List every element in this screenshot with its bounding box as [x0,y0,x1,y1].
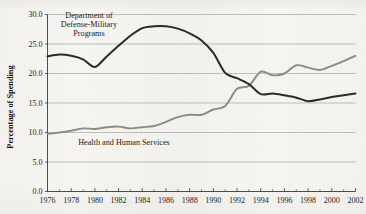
series-annotation-line: Defense-Military [61,20,118,29]
x-axis-tick-labels: 1976197819801982198419861988199019921994… [40,196,364,205]
x-tick-label: 1988 [182,196,198,205]
x-tick-label: 1982 [111,196,127,205]
x-tick-label: 2000 [324,196,340,205]
y-tick-label: 10.0 [29,128,43,137]
defense-series-label: Department ofDefense-MilitaryPrograms [61,11,118,38]
y-tick-label: 15.0 [29,99,43,108]
y-tick-label: 25.0 [29,40,43,49]
spending-line-chart: 0.05.010.015.020.025.030.0 1976197819801… [0,0,366,214]
chart-page: 0.05.010.015.020.025.030.0 1976197819801… [0,0,366,214]
x-tick-label: 1990 [205,196,221,205]
y-tick-label: 30.0 [29,10,43,19]
y-axis-tick-labels: 0.05.010.015.020.025.030.0 [29,10,43,196]
x-tick-label: 1992 [229,196,245,205]
x-tick-label: 1994 [253,196,269,205]
x-tick-label: 1998 [300,196,316,205]
x-tick-label: 1996 [276,196,292,205]
x-tick-label: 1976 [40,196,56,205]
x-tick-label: 1978 [63,196,79,205]
x-tick-label: 1986 [158,196,174,205]
y-axis-title: Percentage of Spending [6,65,15,149]
x-tick-label: 1980 [87,196,103,205]
series-annotation-line: Department of [65,11,113,20]
x-tick-label: 2002 [348,196,364,205]
x-axis-tick-marks [48,188,356,191]
y-tick-label: 5.0 [33,158,43,167]
x-tick-label: 1984 [134,196,150,205]
hhs-series-label: Health and Human Services [78,138,170,147]
series-annotation-line: Health and Human Services [78,138,170,147]
series-annotation-line: Programs [73,29,104,38]
y-tick-label: 20.0 [29,69,43,78]
